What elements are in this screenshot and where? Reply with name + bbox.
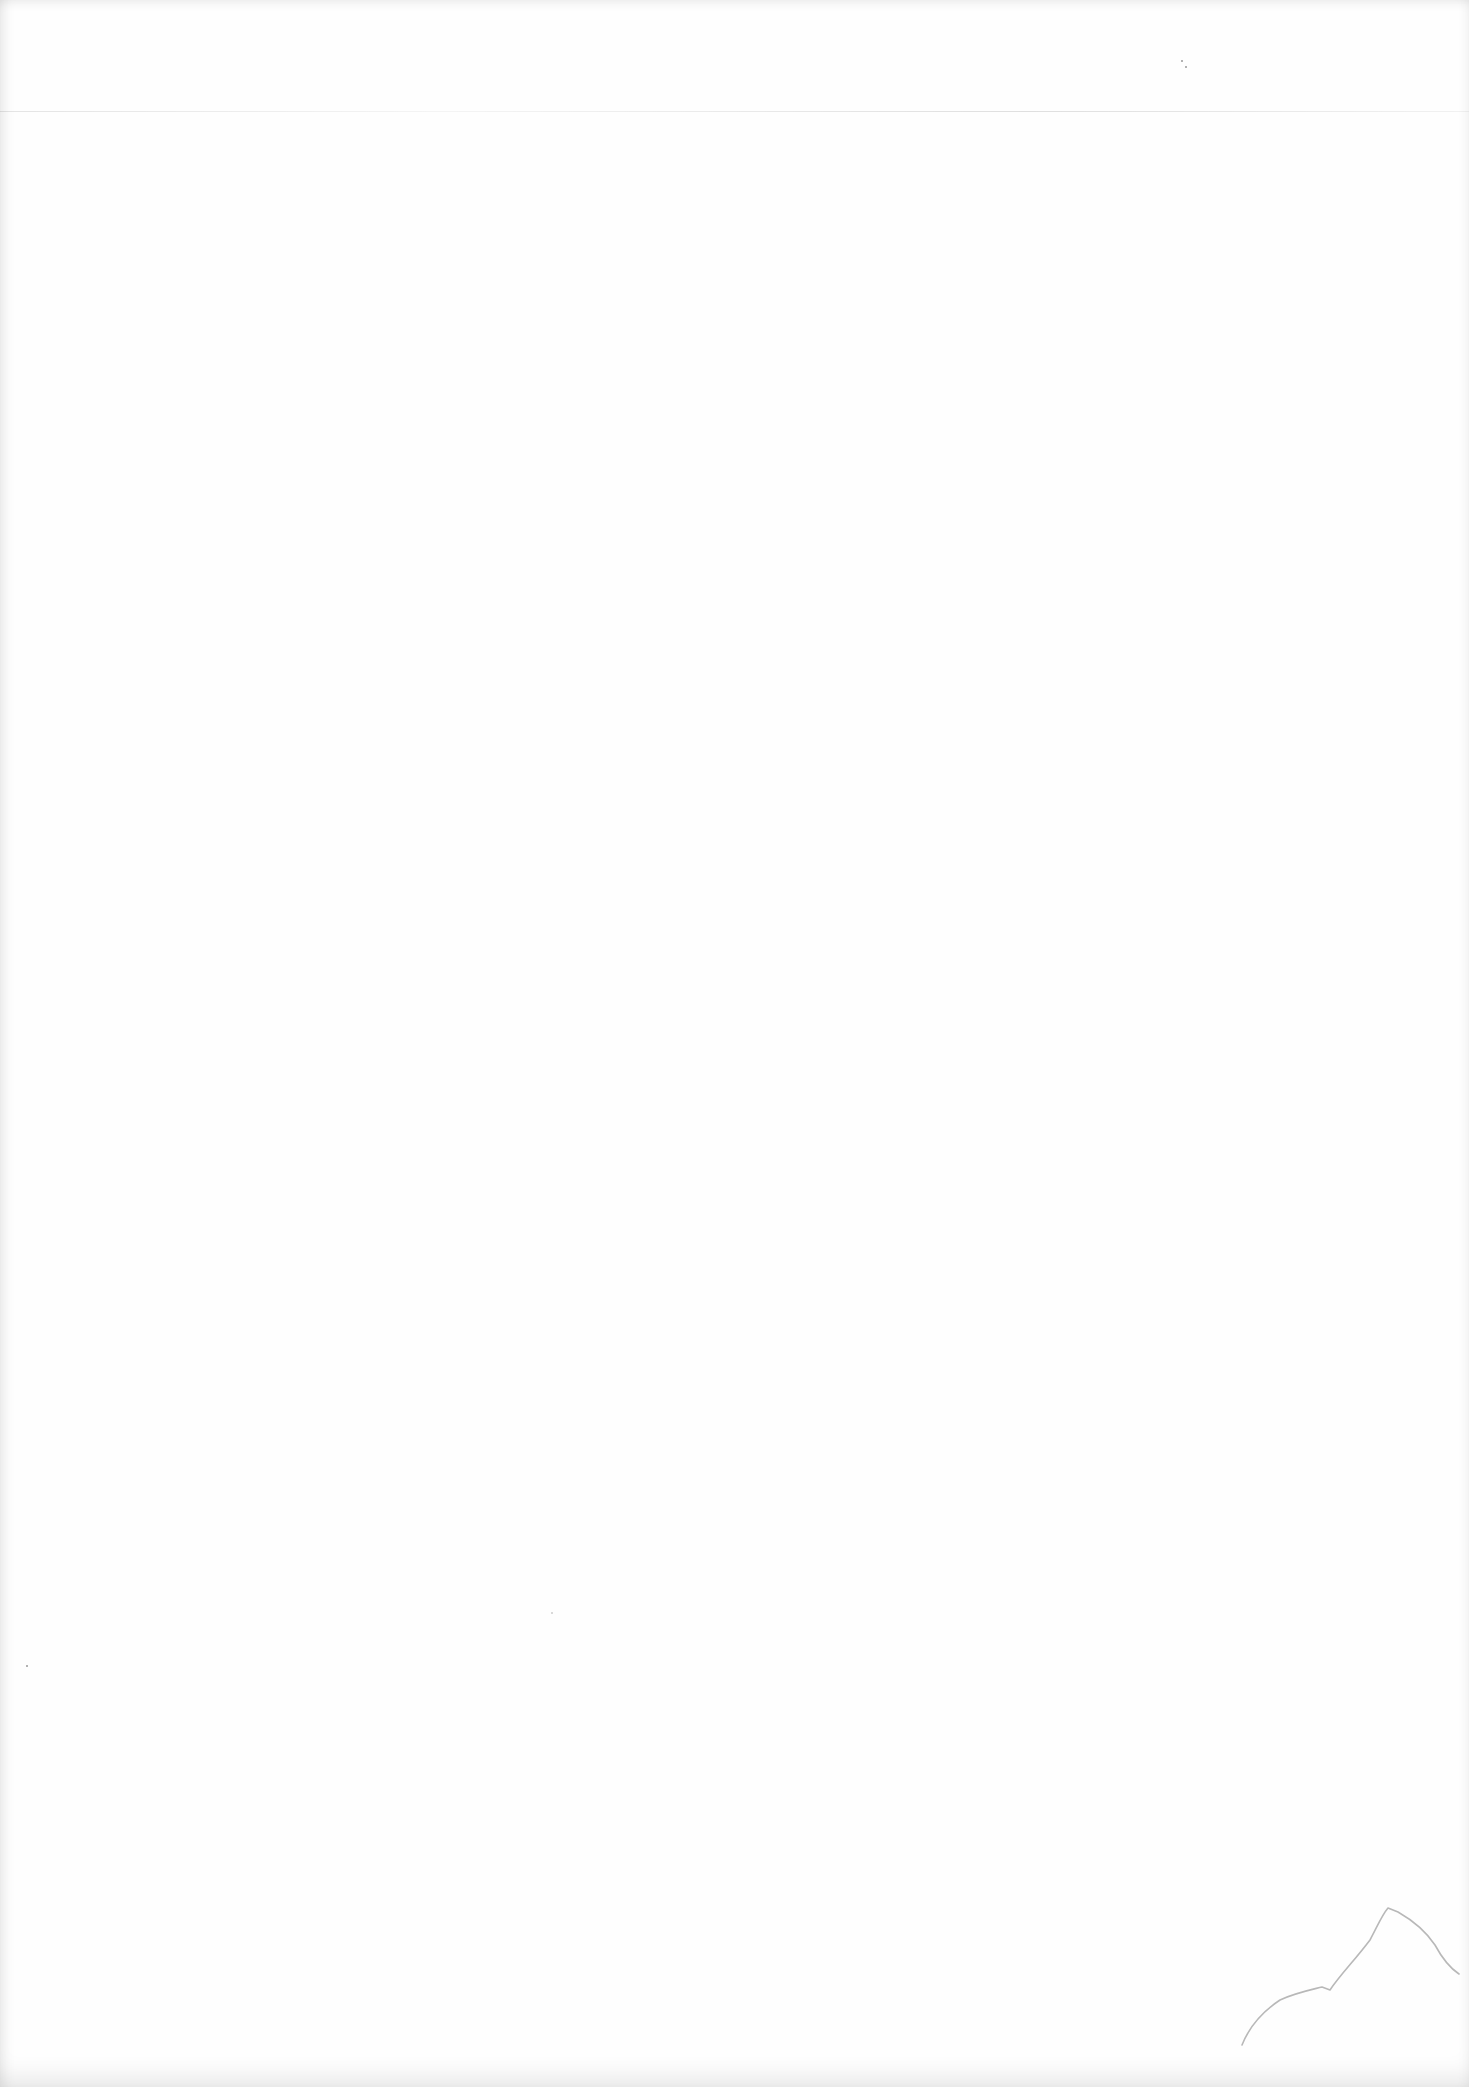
blank-document-page <box>0 0 1469 2087</box>
speck-mark <box>1185 66 1187 68</box>
torn-corner-crease <box>1150 1850 1469 2087</box>
scan-line <box>0 111 1469 112</box>
speck-mark <box>1181 60 1183 62</box>
speck-mark <box>551 1612 553 1614</box>
speck-mark <box>26 1665 28 1667</box>
